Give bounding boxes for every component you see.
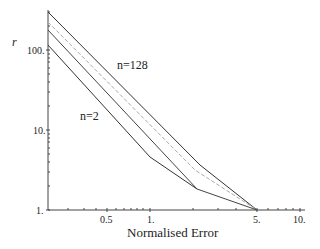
annotation-n128: n=128 [117,60,148,71]
x-axis-label: Normalised Error [127,227,218,238]
y-axis-label: r [12,37,17,48]
x-tick-0.5: 0.5 [100,214,113,225]
y-tick-10: 10. [33,125,46,136]
y-tick-100: 100. [27,45,45,56]
x-tick-5: 5. [253,214,261,225]
chart-plot [0,0,320,249]
x-tick-10: 10. [293,214,306,225]
annotation-n2: n=2 [80,111,99,122]
x-tick-1: 1. [147,214,155,225]
y-tick-1: 1. [36,205,44,216]
